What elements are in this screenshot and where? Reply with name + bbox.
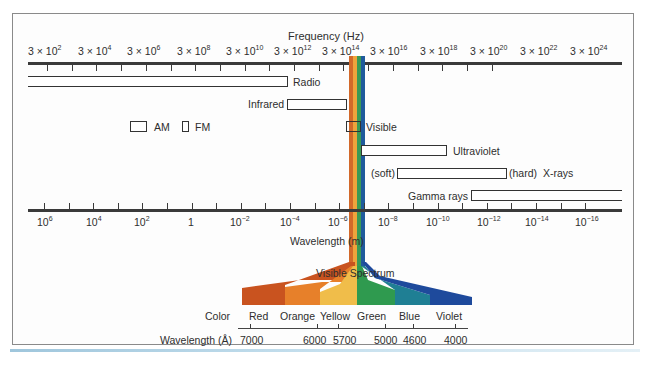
angstrom-axis-line [238,328,468,329]
color-yellow: Yellow [320,310,350,322]
color-violet: Violet [436,310,462,322]
wavelength-4000: 4000 [444,334,467,346]
angstrom-tick [413,324,414,328]
color-green: Green [357,310,386,322]
wavelength-7000: 7000 [240,334,263,346]
angstrom-row-label: Wavelength (Å) [160,334,232,346]
color-row-label: Color [205,310,230,322]
visible-spectrum-label: Visible Spectrum [316,267,395,279]
angstrom-tick [338,324,339,328]
color-orange: Orange [280,310,315,322]
wavelength-5000: 5000 [374,334,397,346]
wavelength-5700: 5700 [333,334,356,346]
angstrom-tick [385,324,386,328]
angstrom-tick [250,324,251,328]
color-blue: Blue [399,310,420,322]
angstrom-tick [455,324,456,328]
wavelength-6000: 6000 [303,334,326,346]
color-red: Red [249,310,268,322]
wavelength-4600: 4600 [403,334,426,346]
angstrom-tick [317,324,318,328]
